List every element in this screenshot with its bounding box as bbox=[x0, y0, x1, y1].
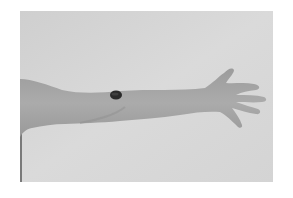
patch-highlight bbox=[112, 93, 119, 96]
arm-photo: Grayscale photo of an extended arm and o… bbox=[20, 11, 273, 182]
arm-illustration bbox=[20, 11, 273, 182]
